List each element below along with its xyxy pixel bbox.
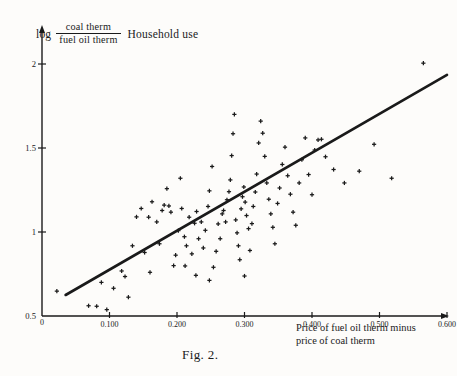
data-point: [230, 153, 234, 157]
title-fraction: coal therm fuel oil therm: [56, 22, 120, 45]
data-point: [111, 286, 115, 290]
data-point: [134, 215, 138, 219]
data-point: [194, 273, 198, 277]
x-tick-label: 0.400: [296, 320, 328, 329]
title-log-prefix: log: [36, 28, 51, 40]
data-point: [291, 210, 295, 214]
data-point: [228, 178, 232, 182]
data-point: [169, 210, 173, 214]
x-tick-label: 0.200: [161, 320, 193, 329]
data-point: [273, 242, 277, 246]
data-point: [147, 215, 151, 219]
data-point: [242, 185, 246, 189]
data-point: [248, 248, 252, 252]
data-point: [210, 164, 214, 168]
data-point: [294, 223, 298, 227]
data-point: [280, 162, 284, 166]
data-point: [323, 155, 327, 159]
data-point: [190, 252, 194, 256]
data-point: [227, 190, 231, 194]
data-point: [203, 228, 207, 232]
data-point: [259, 119, 263, 123]
figure-container: log coal therm fuel oil therm Household …: [0, 0, 457, 376]
data-point: [236, 244, 240, 248]
data-point: [99, 280, 103, 284]
data-point: [267, 197, 271, 201]
data-point: [187, 215, 191, 219]
data-point: [288, 192, 292, 196]
x-tick-label: 0.300: [229, 320, 261, 329]
title-fraction-numerator: coal therm: [63, 22, 114, 33]
data-point: [278, 186, 282, 190]
data-point: [255, 172, 259, 176]
y-tick-label: 1.5: [12, 143, 36, 153]
data-point: [206, 204, 210, 208]
data-point: [218, 237, 222, 241]
origin-label: 0: [40, 318, 44, 327]
data-point: [310, 193, 314, 197]
figure-caption: Fig. 2.: [182, 347, 218, 363]
data-point: [162, 203, 166, 207]
data-point: [180, 206, 184, 210]
data-point: [160, 208, 164, 212]
data-point: [123, 274, 127, 278]
data-point: [150, 200, 154, 204]
data-point: [194, 209, 198, 213]
data-point: [244, 213, 248, 217]
data-point: [238, 258, 242, 262]
data-point: [232, 112, 236, 116]
data-point: [95, 304, 99, 308]
data-point: [239, 207, 243, 211]
title-household-use: Household use: [128, 28, 199, 40]
data-point: [183, 264, 187, 268]
data-point: [332, 167, 336, 171]
data-point: [234, 218, 238, 222]
data-points: [55, 61, 426, 312]
data-point: [319, 137, 323, 141]
data-point: [390, 176, 394, 180]
y-tick-label: 1: [12, 227, 36, 237]
data-point: [242, 274, 246, 278]
data-point: [199, 220, 203, 224]
x-tick-label: 0.100: [94, 320, 126, 329]
data-point: [316, 138, 320, 142]
data-point: [275, 201, 279, 205]
data-point: [307, 172, 311, 176]
data-point: [342, 181, 346, 185]
data-point: [172, 264, 176, 268]
data-point: [184, 244, 188, 248]
regression-line: [66, 75, 447, 295]
data-point: [253, 190, 257, 194]
title-fraction-denominator: fuel oil therm: [56, 35, 120, 46]
data-point: [235, 231, 239, 235]
data-point: [207, 278, 211, 282]
data-point: [165, 187, 169, 191]
data-point: [261, 131, 265, 135]
data-point: [224, 220, 228, 224]
data-point: [207, 189, 211, 193]
data-point: [231, 132, 235, 136]
data-point: [178, 176, 182, 180]
data-point: [211, 265, 215, 269]
data-point: [263, 154, 267, 158]
data-point: [216, 222, 220, 226]
data-point: [372, 142, 376, 146]
data-point: [155, 220, 159, 224]
data-point: [271, 225, 275, 229]
data-point: [246, 227, 250, 231]
data-point: [130, 244, 134, 248]
data-point: [243, 200, 247, 204]
x-tick-label: 0.600: [431, 320, 457, 329]
data-point: [120, 269, 124, 273]
data-point: [283, 145, 287, 149]
data-point: [139, 206, 143, 210]
y-tick-label: 2: [12, 59, 36, 69]
data-point: [182, 235, 186, 239]
data-point: [269, 212, 273, 216]
data-point: [148, 270, 152, 274]
data-point: [421, 61, 425, 65]
data-point: [105, 308, 109, 312]
data-point: [265, 181, 269, 185]
data-point: [201, 246, 205, 250]
data-point: [297, 181, 301, 185]
